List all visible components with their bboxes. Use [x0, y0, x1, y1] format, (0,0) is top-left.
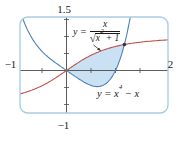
fraction-denominator: √ x2 + 1 [90, 32, 121, 44]
curve-quartic-label: y = x4 − x [97, 88, 139, 99]
equation-lhs: y = [73, 26, 87, 37]
label-arrow [94, 45, 101, 51]
shaded-region [67, 45, 125, 87]
quartic-exponent: 4 [119, 83, 123, 91]
fraction: x √ x2 + 1 [90, 20, 121, 44]
y-axis-max-label: 1.5 [57, 3, 71, 14]
quartic-label-post: − x [122, 88, 139, 99]
x-axis-max-label: 2 [168, 58, 174, 69]
radicand: x2 + 1 [95, 33, 121, 44]
quartic-label-pre: y = x [97, 88, 119, 99]
radicand-tail: + 1 [103, 33, 119, 43]
curve-rational-label: y = x √ x2 + 1 [73, 20, 120, 44]
intersection-point [123, 43, 127, 47]
x-axis-min-label: −1 [5, 59, 17, 70]
radicand-exponent: 2 [100, 27, 104, 35]
y-axis-min-label: −1 [58, 119, 70, 130]
figure-canvas: 1.5 −1 2 −1 y = x √ x2 + 1 y = x4 − x [0, 0, 182, 143]
